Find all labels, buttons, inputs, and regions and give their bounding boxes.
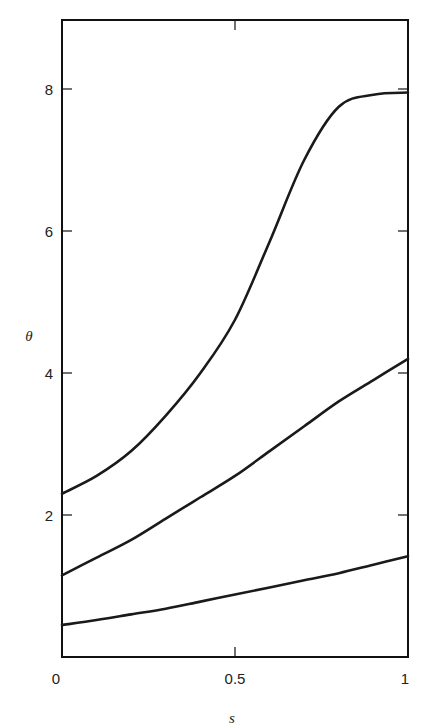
x-tick-label: 0 [52, 670, 60, 687]
plot-frame [62, 20, 408, 657]
y-ticks [62, 89, 408, 515]
x-axis-label: s [229, 710, 235, 726]
curve-lower [62, 556, 408, 625]
y-tick-label: 8 [45, 81, 53, 98]
x-tick-label: 0.5 [225, 670, 246, 687]
curve-middle [62, 359, 408, 576]
x-tick-label: 1 [401, 670, 409, 687]
curves [62, 93, 408, 626]
y-tick-label: 2 [45, 507, 53, 524]
y-axis-label: θ [25, 328, 33, 344]
curve-upper [62, 93, 408, 494]
y-tick-label: 4 [45, 365, 53, 382]
chart: 2 4 6 8 0 0.5 1 θ s [0, 0, 427, 728]
y-tick-label: 6 [45, 223, 53, 240]
